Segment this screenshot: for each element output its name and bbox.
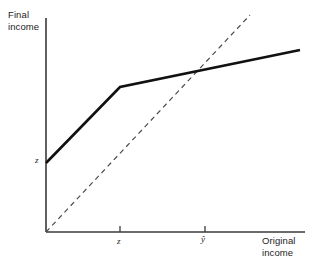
chart-canvas bbox=[0, 0, 316, 271]
x-axis-title: Original income bbox=[262, 235, 296, 258]
chart-figure: Final income Original income z ŷ z bbox=[0, 0, 316, 271]
x-tick-label-z: z bbox=[117, 236, 121, 246]
x-tick-label-yhat: ŷ bbox=[201, 234, 205, 244]
y-intercept-label-z: z bbox=[35, 155, 39, 165]
y-axis-title: Final income bbox=[8, 9, 39, 32]
